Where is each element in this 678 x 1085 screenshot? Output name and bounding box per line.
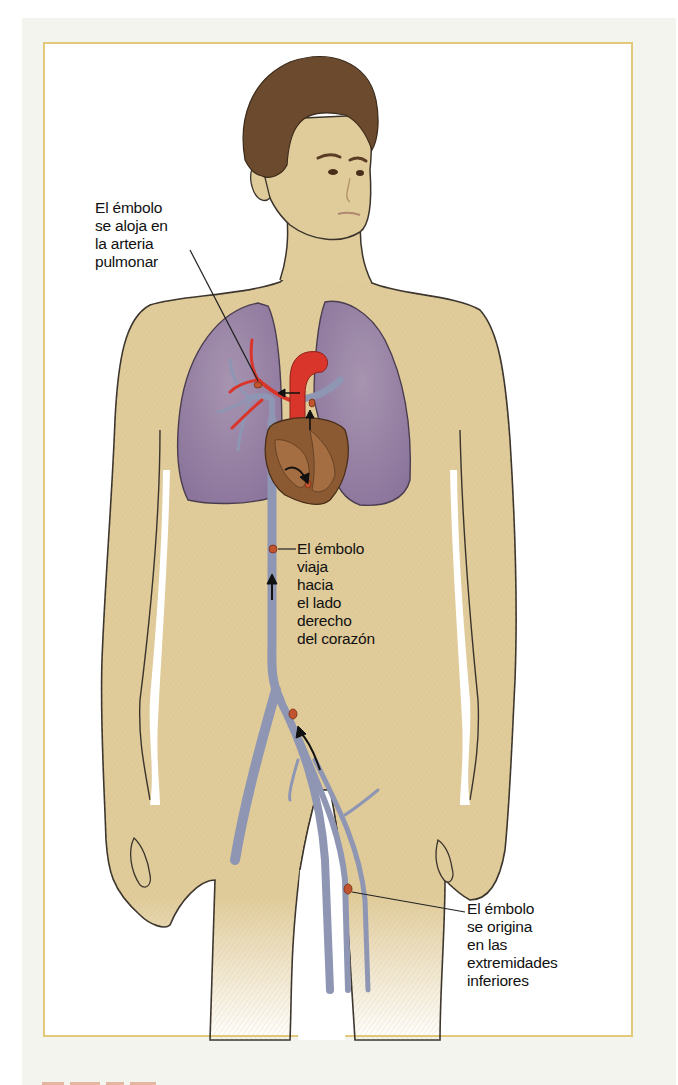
embolus-vena-cava (269, 545, 277, 553)
embolus-pulmonary (254, 382, 262, 388)
label-embolus-travels: El émbolo viaja hacia el lado derecho de… (297, 540, 375, 648)
label-embolus-origin: El émbolo se origina en las extremidades… (467, 900, 558, 990)
head (243, 57, 378, 240)
caption-cropped (42, 1078, 182, 1085)
label-embolus-lodges: El émbolo se aloja en la arteria pulmona… (95, 199, 168, 271)
embolus-iliac (289, 709, 297, 719)
embolus-outflow (309, 399, 315, 407)
embolus-leg (344, 884, 352, 894)
